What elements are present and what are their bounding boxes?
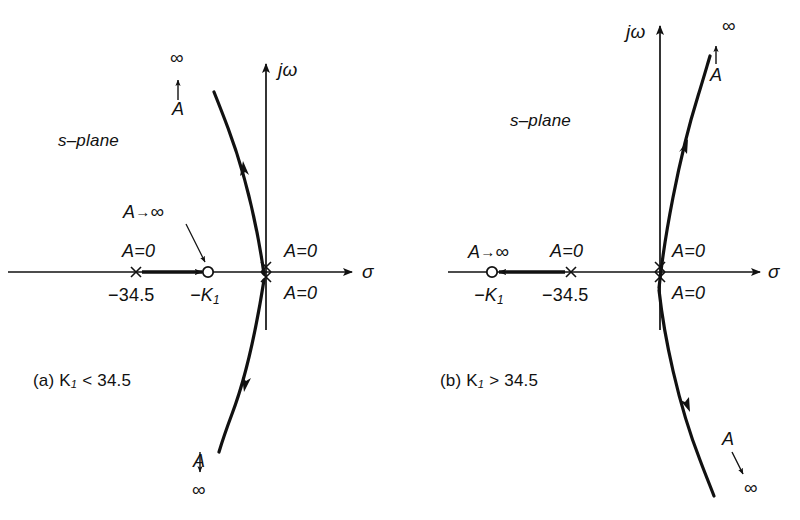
panel-b-pole-label-34p5: −34.5 <box>542 286 589 304</box>
panel-a-zero-label-K1: −K1 <box>190 286 220 306</box>
panel-a-pole-label-34p5: −34.5 <box>108 286 155 304</box>
panel-b-bottom-infinity-label: ∞ <box>744 478 758 497</box>
panel-a-imag-axis-label: jω <box>278 60 297 79</box>
panel-a-lower-branch <box>219 280 264 452</box>
panel-b-imag-axis-label: jω <box>626 22 645 41</box>
figure-root: s–plane jω σ ∞ A A ∞ A→∞ A=0 A=0 A=0 −34… <box>0 0 800 520</box>
panel-b-zero-label-K1: −K1 <box>474 286 504 306</box>
panel-a-bottom-gain-label: A <box>193 452 205 470</box>
panel-a-upper-branch <box>214 92 264 274</box>
panel-a-caption: (a) K1 < 34.5 <box>33 372 131 391</box>
panel-a-zero-leader-line <box>186 224 205 262</box>
panel-b-top-infinity-label: ∞ <box>722 16 736 35</box>
panel-b-zero-label-K1-subscript: 1 <box>497 293 504 307</box>
panel-a-caption-tail: < 34.5 <box>77 371 131 390</box>
panel-a-top-gain-label: A <box>172 100 184 118</box>
panel-b-gain-zero-lower-right: A=0 <box>672 284 705 302</box>
panel-b-top-gain-label: A <box>710 66 722 84</box>
panel-b-zero-marker-K1 <box>487 267 497 277</box>
panel-a-zero-label-K1-subscript: 1 <box>213 293 220 307</box>
panel-b-caption-prefix: (b) K <box>440 371 478 390</box>
panel-a-caption-prefix: (a) K <box>33 371 71 390</box>
panel-a-real-axis-label: σ <box>362 262 374 281</box>
panel-a-lower-branch-arrow <box>242 377 251 392</box>
panel-a-gain-to-infinity-group: A→∞ <box>123 202 164 221</box>
panel-a-bottom-infinity-label: ∞ <box>192 480 206 499</box>
panel-a-gain-zero-upper-right: A=0 <box>284 242 317 260</box>
panel-b-gain-zero-upper-mid: A=0 <box>550 242 583 260</box>
panel-b-gain-to-infinity-symbol: ∞ <box>495 241 509 262</box>
panel-a-zero-label-K1-main: −K <box>190 285 213 305</box>
panel-a-s-plane-label: s–plane <box>58 132 119 149</box>
panel-b-gain-to-infinity-group: A→∞ <box>468 242 509 261</box>
panel-a-gain-zero-lower-right: A=0 <box>284 284 317 302</box>
panel-b-s-plane-label: s–plane <box>510 112 571 129</box>
panel-b-caption: (b) K1 > 34.5 <box>440 372 538 391</box>
panel-b-real-axis-label: σ <box>768 262 780 281</box>
panel-b-gain-zero-upper-right: A=0 <box>672 242 705 260</box>
panel-a-gain-to-infinity-A: A <box>123 202 135 222</box>
panel-b-gain-to-infinity-arrow-glyph: → <box>480 243 495 260</box>
panel-a-gain-to-infinity-arrow-glyph: → <box>135 203 150 220</box>
panel-b-bottom-gain-label: A <box>722 430 734 448</box>
panel-a-top-infinity-label: ∞ <box>170 48 184 67</box>
panel-a-gain-to-infinity-symbol: ∞ <box>150 201 164 222</box>
panel-b-lower-branch <box>659 290 714 496</box>
panel-a-zero-marker-K1 <box>203 267 213 277</box>
panel-b-gain-to-infinity-A: A <box>468 242 480 262</box>
panel-b-bottom-gain-arrow <box>732 452 743 474</box>
panel-a-gain-zero-upper-left: A=0 <box>122 242 155 260</box>
panel-b-zero-label-K1-main: −K <box>474 285 497 305</box>
panel-a-vectors <box>8 64 352 472</box>
panel-b-caption-tail: > 34.5 <box>484 371 538 390</box>
